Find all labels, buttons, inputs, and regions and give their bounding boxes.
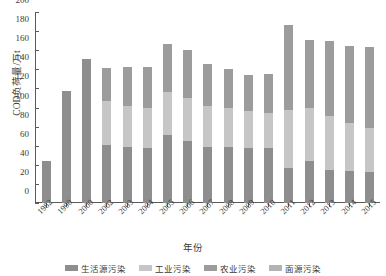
x-label-slot: 2005 (157, 207, 177, 235)
legend-item[interactable]: 生活源污染 (65, 262, 126, 274)
bar-segment (365, 128, 374, 173)
bar-segment (224, 69, 233, 108)
x-label-slot: 2003 (117, 207, 137, 235)
bar-slot (137, 12, 157, 203)
bar-segment (163, 92, 172, 135)
legend-label: 面源污染 (285, 262, 321, 274)
y-axis-tick-label: 120 (16, 71, 30, 81)
x-label-slot: 1990 (56, 207, 76, 235)
x-label-slot: 2010 (259, 207, 279, 235)
stacked-bar[interactable] (365, 47, 374, 203)
stacked-bar[interactable] (284, 25, 293, 203)
stacked-bar[interactable] (82, 59, 91, 203)
bar-segment (203, 106, 212, 147)
bar-segment (284, 110, 293, 167)
bar-segment (203, 64, 212, 106)
stacked-bar[interactable] (123, 67, 132, 203)
bar-segment (264, 74, 273, 113)
stacked-bar[interactable] (62, 91, 71, 203)
x-label-slot: 2012 (299, 207, 319, 235)
bar-slot (299, 12, 319, 203)
bar-segment (183, 50, 192, 98)
stacked-bar[interactable] (143, 67, 152, 203)
bar-segment (203, 147, 212, 203)
bar-segment (305, 108, 314, 161)
legend-swatch (204, 265, 217, 271)
bar-segment (82, 59, 91, 203)
y-axis-tick-label: 100 (16, 91, 30, 101)
bar-series-container (36, 12, 380, 203)
x-label-slot: 2007 (198, 207, 218, 235)
bar-slot (360, 12, 380, 203)
legend-label: 生活源污染 (81, 262, 126, 274)
stacked-bar[interactable] (244, 75, 253, 203)
bar-segment (264, 113, 273, 147)
x-label-slot: 2008 (218, 207, 238, 235)
x-axis-title: 年份 (0, 240, 386, 254)
bar-segment (102, 68, 111, 100)
legend-item[interactable]: 工业污染 (139, 262, 191, 274)
y-axis-tick-label: 80 (20, 110, 29, 120)
bar-slot (157, 12, 177, 203)
x-label-slot: 2013 (319, 207, 339, 235)
legend-swatch (65, 265, 78, 271)
bar-segment (183, 141, 192, 203)
bar-segment (123, 147, 132, 203)
stacked-bar[interactable] (183, 50, 192, 203)
bar-segment (183, 98, 192, 141)
bar-slot (218, 12, 238, 203)
bar-segment (143, 148, 152, 203)
y-axis-tick-label: 60 (20, 129, 29, 139)
legend-label: 工业污染 (155, 262, 191, 274)
stacked-bar[interactable] (345, 46, 354, 203)
bar-slot (198, 12, 218, 203)
bar-segment (102, 101, 111, 145)
bar-segment (244, 111, 253, 147)
x-label-slot: 2000 (76, 207, 96, 235)
bar-segment (143, 67, 152, 107)
x-label-slot: 2006 (178, 207, 198, 235)
stacked-bar[interactable] (305, 40, 314, 203)
stacked-bar[interactable] (102, 68, 111, 203)
y-axis-tick-label: 0 (25, 186, 30, 196)
legend-item[interactable]: 农业污染 (204, 262, 256, 274)
bar-segment (123, 106, 132, 147)
bar-segment (345, 46, 354, 122)
bar-segment (244, 75, 253, 111)
bar-segment (224, 108, 233, 146)
chart-legend: 生活源污染工业污染农业污染面源污染 (0, 262, 386, 274)
x-label-slot: 2002 (97, 207, 117, 235)
x-label-slot: 1982 (36, 207, 56, 235)
bar-slot (238, 12, 258, 203)
bar-segment (123, 67, 132, 105)
bar-slot (56, 12, 76, 203)
stacked-bar[interactable] (264, 74, 273, 203)
y-axis-tick-labels: 020406080100120140160180200 (0, 0, 33, 191)
legend-swatch (139, 265, 152, 271)
y-axis-tick-label: 20 (20, 167, 29, 177)
stacked-bar[interactable] (203, 64, 212, 203)
bar-segment (102, 145, 111, 203)
bar-segment (284, 25, 293, 110)
x-label-slot: 2014 (340, 207, 360, 235)
legend-label: 农业污染 (220, 262, 256, 274)
bar-slot (97, 12, 117, 203)
y-axis-tick-label: 40 (20, 148, 29, 158)
y-axis-tick-label: 180 (16, 14, 30, 24)
bar-segment (163, 135, 172, 203)
stacked-bar[interactable] (325, 41, 334, 203)
legend-swatch (269, 265, 282, 271)
bar-segment (325, 116, 334, 169)
bar-segment (305, 40, 314, 109)
bar-segment (224, 147, 233, 203)
stacked-bar[interactable] (224, 69, 233, 203)
bar-slot (178, 12, 198, 203)
bar-slot (36, 12, 56, 203)
stacked-bar[interactable] (163, 44, 172, 203)
y-axis-tick-label: 200 (16, 0, 30, 5)
bar-slot (76, 12, 96, 203)
bar-segment (62, 91, 71, 203)
x-label-slot: 2009 (238, 207, 258, 235)
legend-item[interactable]: 面源污染 (269, 262, 321, 274)
x-label-slot: 2004 (137, 207, 157, 235)
